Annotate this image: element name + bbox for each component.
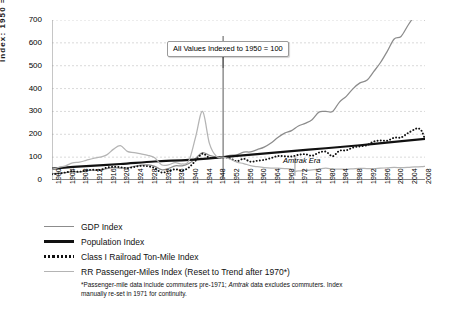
- x-axis-tick-label: 1988: [356, 168, 363, 184]
- y-axis-tick-label: 100: [12, 153, 42, 161]
- y-axis-tick-label: 700: [12, 16, 42, 24]
- x-axis-tick-label: 1976: [315, 168, 322, 184]
- x-axis-tick-label: 1960: [260, 168, 267, 184]
- y-axis-tick-label: 600: [12, 39, 42, 47]
- x-axis-tick-label: 1932: [165, 168, 172, 184]
- legend-item[interactable]: GDP Index: [44, 219, 290, 234]
- x-axis-tick-label: 1940: [192, 168, 199, 184]
- x-axis-tick-label: 1900: [55, 168, 62, 184]
- x-axis-tick-label: 1956: [247, 168, 254, 184]
- y-axis-tick-label: 200: [12, 130, 42, 138]
- legend-item-label: Population Index: [81, 237, 144, 247]
- amtrak-era-label: Amtrak Era: [283, 156, 321, 165]
- x-axis-tick-label: 1936: [178, 168, 185, 184]
- x-axis-tick-label: 1984: [342, 168, 349, 184]
- x-axis-tick-label: 1992: [370, 168, 377, 184]
- legend-line-swatch-icon: [44, 237, 74, 247]
- footnote-text-part1: *Passenger-mile data include commuters p…: [81, 281, 228, 288]
- x-axis-tick-label: 1920: [123, 168, 130, 184]
- legend-line-swatch-icon: [44, 267, 74, 277]
- x-axis-tick-label: 1972: [301, 168, 308, 184]
- x-axis-tick-label: 1928: [151, 168, 158, 184]
- legend-item-label: RR Passenger-Miles Index (Reset to Trend…: [81, 267, 290, 277]
- y-axis-tick-label: 500: [12, 62, 42, 70]
- legend-line-swatch-icon: [44, 252, 74, 262]
- legend-item-label: GDP Index: [81, 222, 122, 232]
- x-axis-tick-label: 1996: [384, 168, 391, 184]
- legend-item[interactable]: Class I Railroad Ton-Mile Index: [44, 249, 290, 264]
- x-axis-tick-label: 1944: [206, 168, 213, 184]
- chart-legend: GDP IndexPopulation IndexClass I Railroa…: [44, 219, 290, 279]
- x-axis-tick-label: 1916: [110, 168, 117, 184]
- x-axis-tick-label: 1908: [82, 168, 89, 184]
- x-axis-tick-label: 2000: [397, 168, 404, 184]
- x-axis-tick-label: 1964: [274, 168, 281, 184]
- legend-item[interactable]: Population Index: [44, 234, 290, 249]
- footnote-emphasis: Amtrak: [228, 281, 248, 288]
- chart-figure: Index: 1950 = 100 0100200300400500600700…: [0, 0, 450, 316]
- y-axis-tick-label: 300: [12, 107, 42, 115]
- x-axis-tick-label: 1980: [329, 168, 336, 184]
- x-axis-tick-label: 1952: [233, 168, 240, 184]
- x-axis-tick-label: 1904: [69, 168, 76, 184]
- series-line: [52, 111, 425, 171]
- y-axis-title: Index: 1950 = 100: [0, 0, 7, 62]
- x-axis-tick-label: 1924: [137, 168, 144, 184]
- x-axis-tick-label: 2008: [425, 168, 432, 184]
- y-axis-tick-label: 400: [12, 85, 42, 93]
- x-axis-tick-label: 2004: [411, 168, 418, 184]
- y-axis-tick-label: 0: [12, 176, 42, 184]
- x-axis-tick-label: 1968: [288, 168, 295, 184]
- x-axis-ticks: 1900190419081912191619201924192819321936…: [52, 182, 425, 216]
- x-axis-tick-label: 1912: [96, 168, 103, 184]
- legend-item-label: Class I Railroad Ton-Mile Index: [81, 252, 198, 262]
- legend-line-swatch-icon: [44, 222, 74, 232]
- chart-footnote: *Passenger-mile data include commuters p…: [81, 281, 349, 298]
- x-axis-tick-label: 1948: [219, 168, 226, 184]
- legend-item[interactable]: RR Passenger-Miles Index (Reset to Trend…: [44, 264, 290, 279]
- index-note-callout: All Values Indexed to 1950 = 100: [167, 41, 289, 57]
